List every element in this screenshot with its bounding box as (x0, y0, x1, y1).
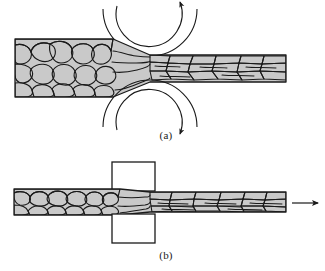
panel-a-label: (a) (146, 129, 186, 141)
roller-top-rotation-arrow (116, 2, 182, 47)
panel-a-group (15, 2, 286, 134)
workpiece-rolling (15, 39, 286, 97)
panel-b-label: (b) (146, 249, 186, 261)
roller-bottom-rotation-arrow (116, 89, 182, 134)
die-block-lower (112, 214, 155, 243)
die-block-upper (112, 162, 155, 191)
deformation-figure: (a) (b) (0, 0, 325, 271)
panel-b-group (14, 162, 318, 243)
workpiece-drawing (14, 189, 286, 215)
